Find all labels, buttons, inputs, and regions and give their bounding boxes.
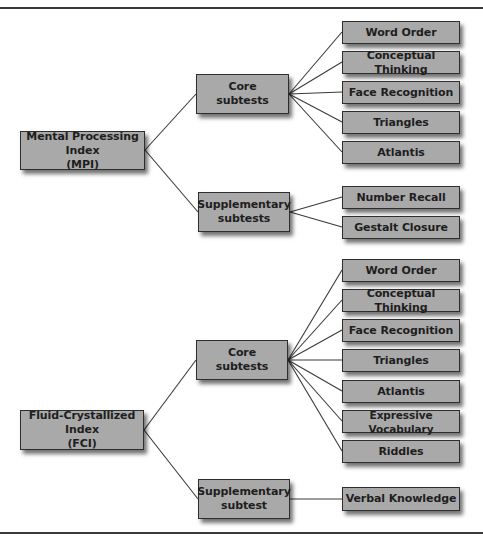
index-box-fci: Fluid-Crystallized Index (FCI)	[20, 410, 144, 450]
group-label: Supplementary	[197, 198, 290, 212]
subtest-box: Triangles	[342, 349, 460, 372]
group-label: Core	[216, 346, 269, 360]
subtest-box: Gestalt Closure	[342, 216, 460, 239]
group-label: Core	[216, 80, 269, 94]
subtest-box: Conceptual Thinking	[342, 51, 460, 74]
group-box-mpi-core: Core subtests	[196, 74, 289, 114]
group-box-fci-supplementary: Supplementary subtest	[198, 479, 290, 519]
index-label-fci: Fluid-Crystallized Index	[21, 409, 143, 437]
subtest-label: Gestalt Closure	[354, 221, 448, 235]
group-label: subtests	[197, 212, 290, 226]
subtest-box: Triangles	[342, 111, 460, 134]
subtest-label: Expressive Vocabulary	[343, 408, 459, 436]
subtest-label: Riddles	[378, 445, 423, 459]
subtest-box: Atlantis	[342, 141, 460, 164]
subtest-label: Number Recall	[356, 191, 445, 205]
subtest-label: Triangles	[373, 116, 429, 130]
subtest-label: Atlantis	[377, 146, 425, 160]
index-abbrev-mpi: (MPI)	[21, 158, 144, 172]
subtest-box: Verbal Knowledge	[342, 487, 460, 511]
subtest-label: Face Recognition	[349, 86, 453, 100]
subtest-label: Word Order	[366, 26, 437, 40]
index-label-mpi: Mental Processing Index	[21, 130, 144, 158]
subtest-label: Atlantis	[377, 385, 425, 399]
group-box-fci-core: Core subtests	[196, 340, 288, 380]
subtest-box: Number Recall	[342, 186, 460, 209]
subtest-box: Riddles	[342, 440, 460, 463]
subtest-label: Verbal Knowledge	[346, 492, 457, 506]
index-abbrev-fci: (FCI)	[21, 437, 143, 451]
subtest-box: Face Recognition	[342, 319, 460, 342]
group-box-mpi-supplementary: Supplementary subtests	[198, 192, 290, 232]
subtest-box: Word Order	[342, 259, 460, 282]
subtest-label: Face Recognition	[349, 324, 453, 338]
group-label: subtest	[197, 499, 290, 513]
subtest-box: Expressive Vocabulary	[342, 410, 460, 433]
subtest-box: Word Order	[342, 21, 460, 44]
group-label: subtests	[216, 94, 269, 108]
subtest-label: Conceptual Thinking	[343, 287, 459, 315]
subtest-label: Triangles	[373, 354, 429, 368]
subtest-label: Conceptual Thinking	[343, 49, 459, 77]
index-box-mpi: Mental Processing Index (MPI)	[20, 131, 145, 170]
subtest-box: Conceptual Thinking	[342, 289, 460, 312]
subtest-box: Atlantis	[342, 380, 460, 403]
subtest-label: Word Order	[366, 264, 437, 278]
group-label: Supplementary	[197, 485, 290, 499]
group-label: subtests	[216, 360, 269, 374]
subtest-box: Face Recognition	[342, 81, 460, 104]
